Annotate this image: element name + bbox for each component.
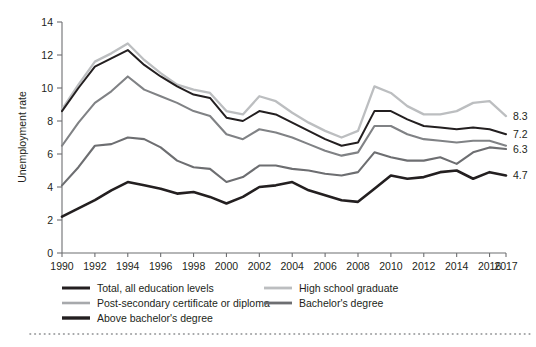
x-tick-label-2014: 2014	[445, 260, 469, 272]
legend-label-total-all-education-levels: Total, all education levels	[97, 282, 214, 294]
series-line-above-bachelor-s-degree	[62, 171, 506, 217]
y-tick-label-12: 12	[41, 49, 53, 61]
x-tick-label-1998: 1998	[182, 260, 206, 272]
x-tick-label-2002: 2002	[248, 260, 272, 272]
y-axis-title: Unemployment rate	[16, 91, 28, 183]
data-series-group	[62, 43, 506, 216]
y-tick-label-4: 4	[47, 181, 53, 193]
series-line-high-school-graduate	[62, 43, 506, 137]
x-tick-label-2017: 2017	[494, 260, 518, 272]
y-tick-label-2: 2	[47, 214, 53, 226]
end-label-6.3: 6.3	[513, 143, 528, 155]
legend-label-high-school-graduate: High school graduate	[299, 282, 398, 294]
y-tick-label-0: 0	[47, 247, 53, 259]
x-tick-label-2008: 2008	[346, 260, 370, 272]
x-tick-label-1990: 1990	[50, 260, 74, 272]
x-tick-label-2000: 2000	[215, 260, 239, 272]
legend-label-bachelor-s-degree: Bachelor's degree	[299, 297, 383, 309]
end-label-4.7: 4.7	[513, 169, 528, 181]
x-axis-ticks: 1990199219941996199820002002200420062008…	[50, 253, 518, 272]
y-tick-label-6: 6	[47, 148, 53, 160]
unemployment-rate-line-chart: Unemployment rate 02468101214 1990199219…	[0, 0, 536, 347]
x-tick-label-2012: 2012	[412, 260, 436, 272]
x-tick-label-2004: 2004	[281, 260, 305, 272]
end-value-labels: 8.37.26.34.7	[513, 110, 528, 181]
y-tick-label-10: 10	[41, 82, 53, 94]
legend-label-post-secondary-certificate-or-diploma: Post-secondary certificate or diploma	[97, 297, 270, 309]
series-line-post-secondary-certificate-or-diploma	[62, 76, 506, 155]
x-tick-label-1996: 1996	[149, 260, 173, 272]
x-tick-label-1992: 1992	[83, 260, 107, 272]
x-tick-label-1994: 1994	[116, 260, 140, 272]
chart-canvas: Unemployment rate 02468101214 1990199219…	[0, 0, 536, 347]
y-tick-label-14: 14	[41, 16, 53, 28]
chart-legend: Total, all education levelsPost-secondar…	[62, 282, 398, 324]
end-label-7.2: 7.2	[513, 128, 528, 140]
series-line-total-all-education-levels	[62, 50, 506, 146]
y-axis-title-group: Unemployment rate	[16, 91, 28, 183]
y-axis-ticks: 02468101214	[41, 16, 62, 259]
legend-label-above-bachelor-s-degree: Above bachelor's degree	[97, 312, 213, 324]
y-tick-label-8: 8	[47, 115, 53, 127]
series-line-bachelor-s-degree	[62, 138, 506, 186]
x-tick-label-2006: 2006	[313, 260, 337, 272]
end-label-8.3: 8.3	[513, 110, 528, 122]
x-tick-label-2010: 2010	[379, 260, 403, 272]
